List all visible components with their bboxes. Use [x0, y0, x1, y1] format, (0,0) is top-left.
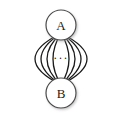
multigraph-canvas: AB ··· — [0, 0, 116, 115]
ellipsis-label: ··· — [53, 51, 69, 65]
multigraph-diagram: AB ··· — [0, 0, 116, 115]
node-label-b: B — [57, 86, 66, 101]
graph-node-a: A — [46, 10, 76, 40]
graph-node-b: B — [46, 78, 76, 108]
node-label-a: A — [56, 18, 66, 33]
